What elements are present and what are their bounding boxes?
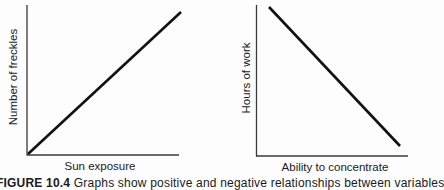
figure-caption-label: FIGURE 10.4 <box>0 176 70 190</box>
figure-caption-text: Graphs show positive and negative relati… <box>74 176 444 190</box>
left-x-axis-label: Sun exposure <box>60 160 140 172</box>
figure-caption: FIGURE 10.4 Graphs show positive and neg… <box>0 176 444 190</box>
left-trend-line <box>28 12 181 154</box>
left-chart <box>27 5 181 156</box>
left-y-axis-label: Number of freckles <box>7 17 19 137</box>
right-y-axis-label: Hours of work <box>240 28 252 128</box>
right-x-axis-label: Ability to concentrate <box>270 161 400 173</box>
right-chart <box>256 5 408 157</box>
right-trend-line <box>269 7 400 146</box>
